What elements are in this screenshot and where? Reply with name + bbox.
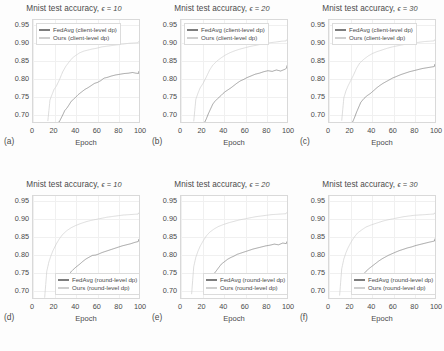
x-tick-label: 100 bbox=[134, 302, 146, 311]
y-tick-label: 0.75 bbox=[163, 268, 177, 277]
x-tick-label: 80 bbox=[114, 302, 122, 311]
panel-title-main: Mnist test accuracy, bbox=[322, 4, 395, 13]
x-axis-label: Epoch bbox=[32, 138, 140, 147]
x-tick-label: 60 bbox=[93, 302, 101, 311]
curve-ours bbox=[194, 39, 287, 121]
y-tick-label: 0.70 bbox=[15, 110, 29, 119]
panel-title-main: Mnist test accuracy, bbox=[322, 180, 395, 189]
y-tick-label: 0.70 bbox=[163, 286, 177, 295]
y-axis-ticks: 0.950.900.850.800.750.70 bbox=[296, 195, 325, 299]
y-tick-label: 0.75 bbox=[15, 92, 29, 101]
panel-title-main: Mnist test accuracy, bbox=[26, 180, 99, 189]
x-tick-label: 40 bbox=[367, 126, 375, 135]
y-tick-label: 0.90 bbox=[163, 38, 177, 47]
panel-title-epsilon: ϵ = 20 bbox=[249, 180, 269, 189]
legend-item: FedAvg (round-level dp) bbox=[206, 276, 285, 284]
curve-fedavg bbox=[352, 64, 435, 122]
panel-letter: (d) bbox=[4, 312, 14, 322]
legend-label: FedAvg (client-level dp) bbox=[53, 26, 117, 34]
plot-area: FedAvg (client-level dp)Ours (client-lev… bbox=[32, 19, 140, 123]
legend-item: FedAvg (client-level dp) bbox=[335, 26, 413, 34]
legend-line-swatch bbox=[354, 287, 365, 288]
y-tick-label: 0.90 bbox=[15, 38, 29, 47]
y-tick-label: 0.95 bbox=[163, 196, 177, 205]
legend-label: Ours (client-level dp) bbox=[53, 34, 109, 42]
y-tick-label: 0.95 bbox=[15, 20, 29, 29]
legend-label: FedAvg (round-level dp) bbox=[72, 276, 137, 284]
x-tick-label: 60 bbox=[93, 126, 101, 135]
y-tick-label: 0.80 bbox=[311, 74, 325, 83]
y-axis-ticks: 0.950.900.850.800.750.70 bbox=[148, 195, 177, 299]
panel-title: Mnist test accuracy, ϵ = 20 bbox=[148, 180, 296, 189]
x-tick-label: 100 bbox=[430, 302, 442, 311]
figure-mnist-test-accuracy: Mnist test accuracy, ϵ = 100.950.900.850… bbox=[0, 0, 444, 351]
y-tick-label: 0.85 bbox=[163, 232, 177, 241]
x-tick-label: 20 bbox=[50, 302, 58, 311]
legend-line-swatch bbox=[39, 37, 50, 38]
plot-frame: FedAvg (round-level dp)Ours (round-level… bbox=[32, 195, 140, 299]
x-axis-label: Epoch bbox=[180, 138, 288, 147]
legend-item: Ours (client-level dp) bbox=[39, 34, 117, 42]
legend-line-swatch bbox=[58, 287, 69, 288]
y-tick-label: 0.85 bbox=[163, 56, 177, 65]
x-tick-label: 80 bbox=[262, 302, 270, 311]
panel-title: Mnist test accuracy, ϵ = 20 bbox=[148, 4, 296, 13]
legend-line-swatch bbox=[335, 37, 346, 38]
y-tick-label: 0.70 bbox=[163, 110, 177, 119]
panel-title-epsilon: ϵ = 20 bbox=[249, 4, 269, 13]
legend-line-swatch bbox=[39, 29, 50, 30]
panel-title-main: Mnist test accuracy, bbox=[174, 180, 247, 189]
legend-label: FedAvg (client-level dp) bbox=[349, 26, 413, 34]
chart-panel-a: Mnist test accuracy, ϵ = 100.950.900.850… bbox=[0, 0, 148, 175]
y-axis-ticks: 0.950.900.850.800.750.70 bbox=[0, 19, 29, 123]
y-tick-label: 0.80 bbox=[311, 250, 325, 259]
plot-area: FedAvg (round-level dp)Ours (round-level… bbox=[328, 195, 436, 299]
y-tick-label: 0.85 bbox=[15, 56, 29, 65]
y-tick-label: 0.85 bbox=[311, 56, 325, 65]
y-tick-label: 0.75 bbox=[311, 268, 325, 277]
y-axis-ticks: 0.950.900.850.800.750.70 bbox=[0, 195, 29, 299]
x-tick-label: 40 bbox=[367, 302, 375, 311]
plot-area: FedAvg (round-level dp)Ours (round-level… bbox=[180, 195, 288, 299]
legend-line-swatch bbox=[187, 29, 198, 30]
y-tick-label: 0.80 bbox=[163, 74, 177, 83]
y-tick-label: 0.80 bbox=[163, 250, 177, 259]
y-tick-label: 0.70 bbox=[15, 286, 29, 295]
x-tick-label: 0 bbox=[326, 302, 330, 311]
legend-label: FedAvg (round-level dp) bbox=[368, 276, 433, 284]
x-tick-label: 0 bbox=[30, 126, 34, 135]
x-tick-label: 80 bbox=[114, 126, 122, 135]
plot-frame: FedAvg (round-level dp)Ours (round-level… bbox=[180, 195, 288, 299]
y-tick-label: 0.80 bbox=[15, 250, 29, 259]
legend-item: FedAvg (round-level dp) bbox=[58, 276, 137, 284]
y-tick-label: 0.75 bbox=[311, 92, 325, 101]
x-tick-label: 60 bbox=[241, 302, 249, 311]
curve-fedavg bbox=[204, 65, 287, 122]
chart-legend: FedAvg (client-level dp)Ours (client-lev… bbox=[36, 23, 121, 45]
y-tick-label: 0.85 bbox=[311, 232, 325, 241]
curve-ours bbox=[48, 41, 139, 121]
x-axis-ticks: 020406080100 bbox=[180, 126, 288, 138]
chart-legend: FedAvg (client-level dp)Ours (client-lev… bbox=[332, 23, 417, 45]
x-tick-label: 40 bbox=[71, 302, 79, 311]
chart-panel-d: Mnist test accuracy, ϵ = 100.950.900.850… bbox=[0, 176, 148, 351]
y-axis-ticks: 0.950.900.850.800.750.70 bbox=[296, 19, 325, 123]
plot-frame: FedAvg (client-level dp)Ours (client-lev… bbox=[328, 19, 436, 123]
panel-title-epsilon: ϵ = 30 bbox=[397, 180, 417, 189]
x-tick-label: 40 bbox=[219, 302, 227, 311]
x-tick-label: 100 bbox=[282, 126, 294, 135]
legend-item: Ours (round-level dp) bbox=[58, 284, 137, 292]
y-tick-label: 0.90 bbox=[163, 214, 177, 223]
panel-title-epsilon: ϵ = 10 bbox=[101, 4, 121, 13]
legend-line-swatch bbox=[206, 287, 217, 288]
y-tick-label: 0.70 bbox=[311, 286, 325, 295]
plot-area: FedAvg (client-level dp)Ours (client-lev… bbox=[328, 19, 436, 123]
x-tick-label: 100 bbox=[134, 126, 146, 135]
x-tick-label: 0 bbox=[178, 302, 182, 311]
x-tick-label: 80 bbox=[262, 126, 270, 135]
x-axis-ticks: 020406080100 bbox=[32, 126, 140, 138]
y-tick-label: 0.95 bbox=[163, 20, 177, 29]
legend-line-swatch bbox=[206, 279, 217, 280]
plot-area: FedAvg (client-level dp)Ours (client-lev… bbox=[180, 19, 288, 123]
legend-line-swatch bbox=[187, 37, 198, 38]
